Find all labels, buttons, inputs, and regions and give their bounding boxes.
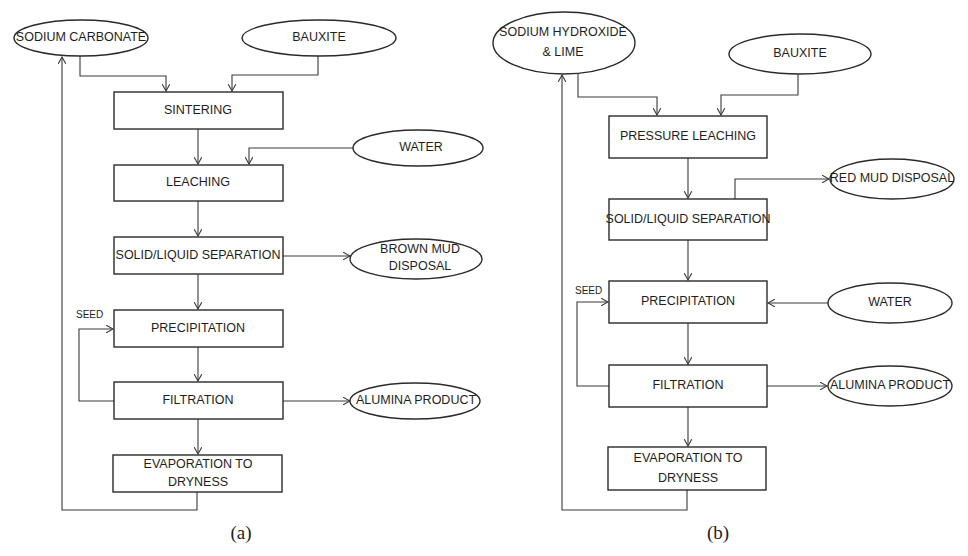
output-red-mud-label: RED MUD DISPOSAL	[830, 171, 954, 185]
output-red-mud: RED MUD DISPOSAL	[830, 159, 954, 199]
input-sodium-hydroxide-lime: SODIUM HYDROXIDE & LIME	[493, 12, 635, 74]
step-precipitation-a: PRECIPITATION	[114, 310, 283, 347]
input-sodium-carbonate: SODIUM CARBONATE	[14, 20, 148, 56]
output-brown-mud: BROWN MUD DISPOSAL	[350, 239, 482, 279]
step-solid-liquid-separation-a: SOLID/LIQUID SEPARATION	[114, 237, 283, 274]
step-filtration-b-label: FILTRATION	[652, 378, 723, 392]
step-evaporation-a-label-line1: EVAPORATION TO	[144, 457, 253, 471]
input-water-b: WATER	[828, 283, 952, 323]
step-evaporation-b-label-line1: EVAPORATION TO	[634, 451, 743, 465]
output-alumina-a: ALUMINA PRODUCT	[350, 383, 480, 419]
arrow-bauxite-to-pressure-leaching	[721, 74, 798, 115]
diagram-b: SODIUM HYDROXIDE & LIME BAUXITE PRESSURE…	[493, 12, 954, 544]
output-alumina-b-label: ALUMINA PRODUCT	[830, 378, 951, 392]
step-leaching: LEACHING	[114, 165, 283, 201]
input-bauxite-a: BAUXITE	[242, 20, 396, 56]
step-filtration-a: FILTRATION	[114, 382, 283, 419]
input-bauxite-b-label: BAUXITE	[773, 46, 827, 60]
input-bauxite-b: BAUXITE	[729, 34, 871, 74]
step-pressure-leaching-label: PRESSURE LEACHING	[620, 129, 756, 143]
step-solid-liquid-separation-b-label: SOLID/LIQUID SEPARATION	[606, 212, 771, 226]
step-leaching-label: LEACHING	[166, 175, 230, 189]
step-filtration-b: FILTRATION	[609, 365, 767, 407]
step-evaporation-a-label-line2: DRYNESS	[168, 475, 228, 489]
arrow-bauxite-to-sintering	[232, 56, 318, 91]
step-solid-liquid-separation-a-label: SOLID/LIQUID SEPARATION	[116, 248, 281, 262]
output-alumina-a-label: ALUMINA PRODUCT	[356, 393, 477, 407]
input-water-a-label: WATER	[399, 140, 443, 154]
input-water-b-label: WATER	[868, 295, 912, 309]
step-evaporation-b: EVAPORATION TO DRYNESS	[608, 447, 766, 490]
step-sintering-label: SINTERING	[164, 103, 232, 117]
arrow-seed-loop	[79, 329, 114, 401]
arrow-water-to-leaching	[249, 148, 353, 164]
input-sodium-carbonate-label: SODIUM CARBONATE	[16, 30, 146, 44]
step-precipitation-a-label: PRECIPITATION	[151, 321, 245, 335]
step-precipitation-b-label: PRECIPITATION	[641, 294, 735, 308]
seed-label-a: SEED	[76, 309, 103, 320]
input-sodium-hydroxide-label-line2: & LIME	[543, 45, 584, 59]
diagram-a: SODIUM CARBONATE BAUXITE WATER SINTERING…	[14, 20, 483, 544]
caption-a: (a)	[230, 522, 251, 544]
arrow-sodium-carbonate-to-sintering	[80, 56, 166, 91]
flowchart-canvas: SODIUM CARBONATE BAUXITE WATER SINTERING…	[0, 0, 968, 556]
step-evaporation-a: EVAPORATION TO DRYNESS	[113, 455, 282, 492]
step-pressure-leaching: PRESSURE LEACHING	[609, 116, 767, 158]
step-filtration-a-label: FILTRATION	[162, 393, 233, 407]
arrow-sodium-hydroxide-to-pressure-leaching	[578, 74, 657, 115]
output-alumina-b: ALUMINA PRODUCT	[828, 366, 952, 406]
arrow-separation-to-red-mud	[735, 179, 829, 199]
step-sintering: SINTERING	[114, 92, 283, 129]
step-solid-liquid-separation-b: SOLID/LIQUID SEPARATION	[606, 199, 771, 240]
caption-b: (b)	[707, 522, 729, 544]
input-water-a: WATER	[353, 130, 483, 166]
step-precipitation-b: PRECIPITATION	[609, 281, 767, 323]
step-evaporation-b-label-line2: DRYNESS	[658, 471, 718, 485]
output-brown-mud-label-line1: BROWN MUD	[380, 242, 460, 256]
input-sodium-hydroxide-label-line1: SODIUM HYDROXIDE	[499, 25, 627, 39]
output-brown-mud-label-line2: DISPOSAL	[389, 259, 452, 273]
input-bauxite-a-label: BAUXITE	[292, 30, 346, 44]
arrow-seed-loop-b	[577, 302, 609, 386]
seed-label-b: SEED	[575, 285, 602, 296]
